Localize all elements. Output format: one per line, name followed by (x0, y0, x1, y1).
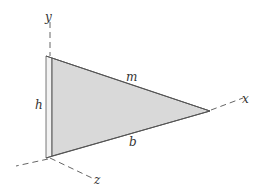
x-axis (211, 98, 243, 110)
mass-label: m (126, 70, 137, 84)
x-axis-label: x (242, 92, 249, 106)
plate-edge (46, 56, 52, 158)
triangular-plate-diagram: y x z m h b (0, 0, 261, 196)
z-axis-label: z (93, 173, 101, 187)
negative-x-axis (16, 159, 48, 166)
height-label: h (35, 98, 43, 112)
y-axis-label: y (44, 10, 52, 24)
z-axis (50, 158, 92, 178)
base-label: b (129, 135, 137, 149)
